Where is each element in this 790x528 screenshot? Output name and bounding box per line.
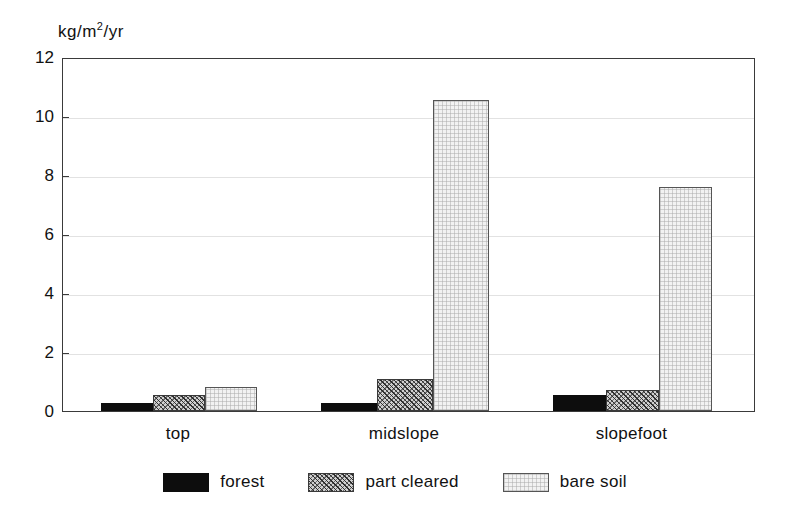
bar-part-cleared-slopefoot: [606, 390, 659, 411]
gridline: [63, 118, 754, 119]
gridline: [63, 354, 754, 355]
gridline: [63, 177, 754, 178]
gridline: [63, 236, 754, 237]
y-axis-tick-label: 0: [8, 402, 54, 422]
y-axis-tick-mark: [62, 353, 69, 354]
bar-forest-slopefoot: [553, 395, 606, 411]
y-axis-tick-label: 12: [8, 48, 54, 68]
bar-forest-midslope: [321, 403, 377, 411]
y-axis-tick-label: 8: [8, 166, 54, 186]
bar-forest-top: [101, 403, 153, 411]
legend-label: part cleared: [365, 472, 458, 492]
gridline: [63, 295, 754, 296]
y-axis-tick-label: 4: [8, 284, 54, 304]
bar-bare-soil-midslope: [433, 100, 489, 411]
y-axis-tick-mark: [62, 294, 69, 295]
bar-part-cleared-top: [153, 395, 205, 411]
y-axis-tick-mark: [62, 176, 69, 177]
y-axis-tick-label: 10: [8, 107, 54, 127]
x-axis-label-top: top: [166, 424, 191, 444]
bar-bare-soil-slopefoot: [659, 187, 712, 411]
legend-item-part-cleared: part cleared: [308, 472, 458, 492]
chart-legend: forestpart clearedbare soil: [0, 472, 790, 492]
legend-item-bare-soil: bare soil: [503, 472, 627, 492]
y-axis-unit-label: kg/m2/yr: [58, 22, 124, 42]
y-axis-unit-pre: kg/m: [58, 22, 97, 41]
x-axis-label-midslope: midslope: [369, 424, 439, 444]
plot-area: [62, 58, 755, 412]
y-axis-tick-mark: [62, 235, 69, 236]
y-axis-tick-mark: [62, 117, 69, 118]
y-axis-tick-labels: 024681012: [0, 0, 54, 528]
bar-bare-soil-top: [205, 387, 257, 411]
legend-item-forest: forest: [163, 472, 264, 492]
legend-label: bare soil: [560, 472, 627, 492]
x-axis-label-slopefoot: slopefoot: [596, 424, 668, 444]
legend-swatch-bare-soil-icon: [503, 473, 549, 492]
y-axis-tick-label: 6: [8, 225, 54, 245]
y-axis-tick-label: 2: [8, 343, 54, 363]
y-axis-unit-post: /yr: [103, 22, 123, 41]
bar-chart-figure: kg/m2/yr 024681012 topmidslopeslopefoot …: [0, 0, 790, 528]
legend-swatch-part-cleared-icon: [308, 473, 354, 492]
legend-label: forest: [220, 472, 264, 492]
bar-part-cleared-midslope: [377, 379, 433, 411]
legend-swatch-forest-icon: [163, 473, 209, 492]
